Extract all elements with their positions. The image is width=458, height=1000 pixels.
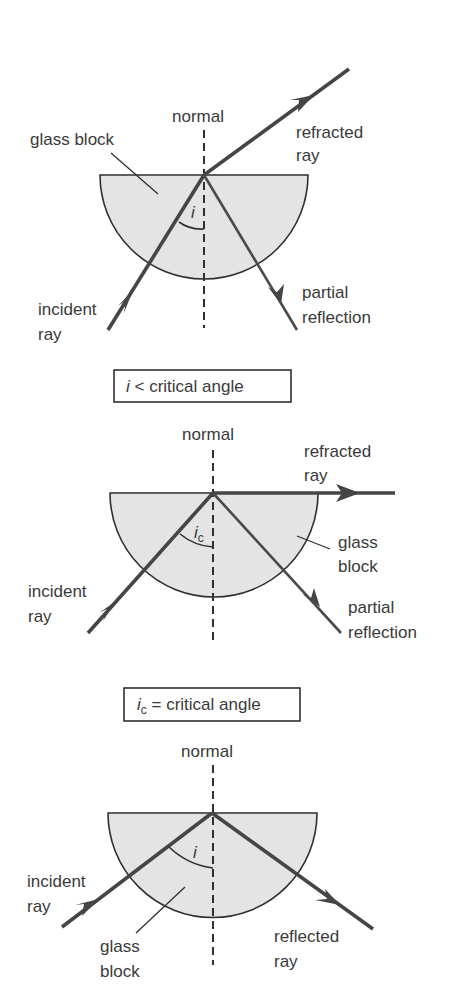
incident-label-1: incident (28, 582, 87, 601)
caption-1: i < critical angle (114, 370, 291, 402)
caption-text: ic = critical angle (137, 695, 261, 717)
partial-label-2: reflection (348, 623, 417, 642)
incident-label-2: ray (27, 897, 51, 916)
figure-canvas: normal glass block refracted ray i incid… (0, 0, 458, 1000)
normal-label: normal (182, 425, 234, 444)
glass-label-1: glass (100, 937, 140, 956)
refracted-label-1: refracted (304, 442, 371, 461)
refracted-label-2: ray (296, 146, 320, 165)
diagram-1-below-critical: normal glass block refracted ray i incid… (30, 69, 371, 344)
refracted-label-1: refracted (296, 123, 363, 142)
normal-label: normal (181, 742, 233, 761)
incident-label-1: incident (27, 872, 86, 891)
glass-label-1: glass (338, 533, 378, 552)
glass-block-label: glass block (30, 130, 115, 149)
normal-label: normal (172, 107, 224, 126)
partial-label-2: reflection (302, 308, 371, 327)
incident-label-1: incident (38, 300, 97, 319)
reflected-label-1: reflected (274, 927, 339, 946)
incident-label-2: ray (28, 607, 52, 626)
partial-label-1: partial (348, 598, 394, 617)
incident-label-2: ray (38, 325, 62, 344)
glass-label-2: block (338, 557, 378, 576)
partial-label-1: partial (302, 283, 348, 302)
glass-label-2: block (100, 962, 140, 981)
caption-text: i < critical angle (126, 377, 244, 396)
reflection-arrowhead-icon (302, 588, 320, 607)
refracted-label-2: ray (304, 466, 328, 485)
diagram-2-at-critical: normal refracted ray glass block ic inci… (28, 425, 417, 643)
refracted-ray (204, 69, 349, 175)
diagram-3-total-internal-reflection: normal i incident ray glass block reflec… (27, 742, 373, 981)
reflected-label-2: ray (274, 952, 298, 971)
caption-2: ic = critical angle (124, 688, 300, 721)
